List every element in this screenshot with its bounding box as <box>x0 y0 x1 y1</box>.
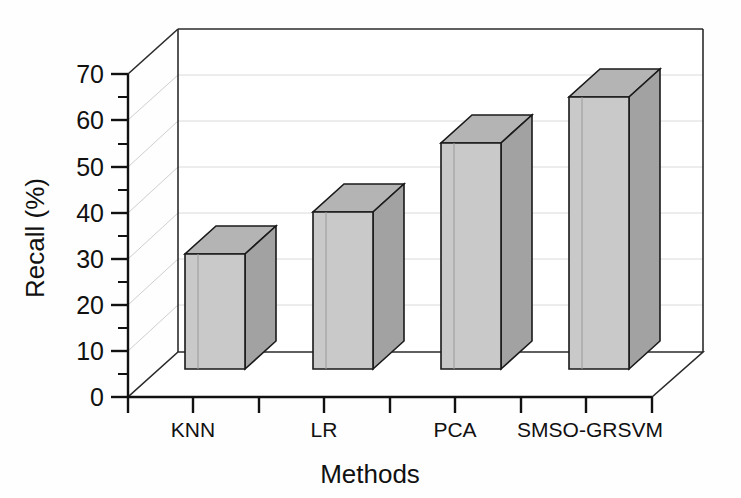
bar-lr-front <box>313 212 373 369</box>
bar-knn[interactable] <box>185 226 276 369</box>
y-axis-minor-ticks <box>118 97 128 374</box>
bar-lr[interactable] <box>313 184 404 369</box>
bar-pca[interactable] <box>441 115 532 369</box>
depth-guides <box>128 75 178 351</box>
bar-smso-grsvm[interactable] <box>569 69 660 369</box>
y-tick-label-70: 70 <box>76 60 104 88</box>
bar-pca-side <box>501 115 532 369</box>
bar-smso-grsvm-front <box>569 97 629 369</box>
bar-lr-side <box>373 184 404 369</box>
y-tick-label-50: 50 <box>76 153 104 181</box>
y-tick-label-0: 0 <box>90 383 104 411</box>
y-tick-label-20: 20 <box>76 291 104 319</box>
y-axis-title: Recall (%) <box>20 178 50 298</box>
x-category-label-knn: KNN <box>171 418 215 441</box>
x-axis-title: Methods <box>320 459 420 489</box>
chart-figure: 0 10 20 30 40 50 60 70 KNN LR PCA SMSO-G… <box>0 0 741 498</box>
y-tick-label-10: 10 <box>76 337 104 365</box>
y-tick-label-40: 40 <box>76 199 104 227</box>
bar-chart-3d: 0 10 20 30 40 50 60 70 KNN LR PCA SMSO-G… <box>0 0 741 498</box>
x-category-label-smso-grsvm: SMSO-GRSVM <box>517 418 663 441</box>
y-tick-label-30: 30 <box>76 245 104 273</box>
frame-depth-edge <box>128 29 178 74</box>
bar-smso-grsvm-side <box>629 69 660 369</box>
y-tick-label-60: 60 <box>76 106 104 134</box>
x-category-label-pca: PCA <box>433 418 476 441</box>
bar-knn-front <box>185 254 245 369</box>
x-category-label-lr: LR <box>311 418 338 441</box>
bar-pca-front <box>441 143 501 369</box>
x-axis-ticks <box>128 397 652 413</box>
